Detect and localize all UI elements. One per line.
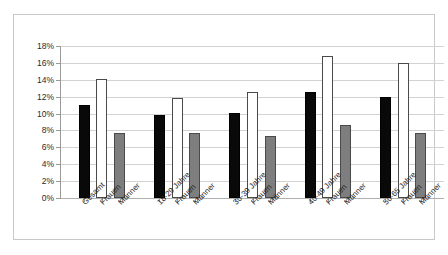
y-axis-label: 14%	[24, 76, 54, 85]
y-axis-tick	[56, 114, 60, 115]
bar	[380, 97, 391, 198]
y-axis-tick	[56, 97, 60, 98]
gridline	[61, 63, 444, 64]
y-axis-label: 4%	[24, 160, 54, 169]
y-axis-tick	[56, 46, 60, 47]
y-axis-tick	[56, 181, 60, 182]
bar	[79, 105, 90, 198]
y-axis-label: 16%	[24, 59, 54, 68]
bar	[154, 115, 165, 198]
y-axis-tick-labels: 18%16%14%12%10%8%6%4%2%0%	[22, 46, 54, 198]
y-axis-tick	[56, 147, 60, 148]
y-axis-tick	[56, 198, 60, 199]
chart-frame: 18%16%14%12%10%8%6%4%2%0% GesamtFrauenMä…	[13, 14, 435, 240]
y-axis-tick	[56, 130, 60, 131]
y-axis-label: 0%	[24, 194, 54, 203]
y-axis-label: 8%	[24, 126, 54, 135]
y-axis-label: 18%	[24, 42, 54, 51]
bar-chart: 18%16%14%12%10%8%6%4%2%0% GesamtFrauenMä…	[0, 0, 448, 255]
bar	[305, 92, 316, 198]
x-axis-tick-labels: GesamtFrauenMänner18-29 JahreFrauenMänne…	[61, 201, 448, 253]
y-axis-tick	[56, 80, 60, 81]
gridline	[61, 46, 444, 47]
y-axis-label: 6%	[24, 143, 54, 152]
gridline	[61, 80, 444, 81]
bar	[229, 113, 240, 198]
bar	[96, 79, 107, 198]
plot-area	[61, 46, 444, 198]
y-axis-tick	[56, 63, 60, 64]
y-axis-tick	[56, 164, 60, 165]
y-axis-label: 12%	[24, 92, 54, 101]
y-axis-label: 10%	[24, 109, 54, 118]
y-axis-label: 2%	[24, 177, 54, 186]
